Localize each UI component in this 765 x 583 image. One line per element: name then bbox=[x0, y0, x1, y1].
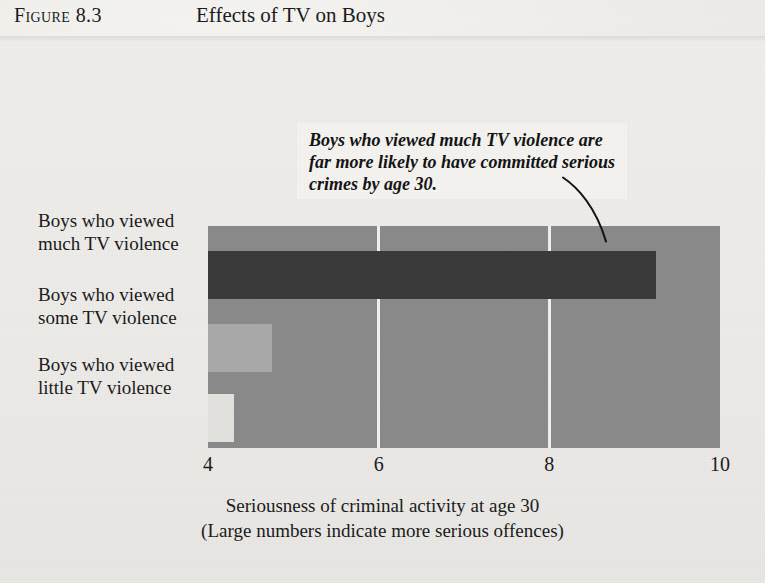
xtick-label-4: 4 bbox=[203, 453, 213, 476]
annotation-text: Boys who viewed much TV violence are far… bbox=[309, 129, 617, 195]
figure-panel: Boys who viewed much TV violence Boys wh… bbox=[0, 41, 765, 583]
x-axis-caption: Seriousness of criminal activity at age … bbox=[0, 493, 765, 543]
x-axis-caption-line1: Seriousness of criminal activity at age … bbox=[0, 493, 765, 518]
bar-much-tv-violence bbox=[208, 251, 656, 299]
plot-area bbox=[208, 226, 720, 448]
xtick-label-10: 10 bbox=[710, 453, 730, 476]
figure-label: Figure 8.3 bbox=[14, 4, 102, 27]
bar-little-tv-violence bbox=[208, 394, 234, 442]
annotation-callout: Boys who viewed much TV violence are far… bbox=[297, 123, 627, 199]
x-axis-caption-line2: (Large numbers indicate more serious off… bbox=[0, 518, 765, 543]
bar-some-tv-violence bbox=[208, 324, 272, 372]
figure-label-prefix: Figure bbox=[14, 4, 70, 26]
figure-header: Figure 8.3 Effects of TV on Boys bbox=[0, 0, 765, 36]
figure-title: Effects of TV on Boys bbox=[196, 3, 385, 28]
figure-label-number: 8.3 bbox=[76, 4, 102, 26]
figure-page: Figure 8.3 Effects of TV on Boys Boys wh… bbox=[0, 0, 765, 583]
xtick-label-8: 8 bbox=[544, 453, 554, 476]
xtick-label-6: 6 bbox=[374, 453, 384, 476]
